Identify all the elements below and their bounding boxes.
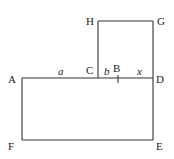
point-label-G: G xyxy=(157,15,165,27)
point-label-B: B xyxy=(113,62,120,74)
segment-label-x: x xyxy=(136,65,142,77)
point-label-F: F xyxy=(8,140,14,152)
point-label-A: A xyxy=(8,73,16,85)
point-label-H: H xyxy=(86,15,94,27)
segment-label-b: b xyxy=(104,65,110,77)
geometry-diagram: A C B D H G F E a b x xyxy=(0,0,174,159)
segment-label-a: a xyxy=(58,65,64,77)
point-label-E: E xyxy=(156,140,163,152)
point-label-D: D xyxy=(156,73,164,85)
point-label-C: C xyxy=(86,64,93,76)
